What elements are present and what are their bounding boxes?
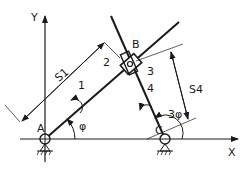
y-axis-label: Y xyxy=(30,11,38,24)
angle-phi-arc xyxy=(67,119,75,139)
s1-label: S1 xyxy=(52,66,71,85)
ground-support-c xyxy=(157,144,173,155)
phi-label: φ xyxy=(79,120,86,133)
three-phi-label: 3φ xyxy=(168,108,182,121)
joint-b xyxy=(128,62,133,67)
link-2-label: 2 xyxy=(103,56,110,69)
link-4 xyxy=(111,16,165,139)
s4-label: S4 xyxy=(189,83,203,96)
point-a-label: A xyxy=(37,122,45,135)
link-1-label: 1 xyxy=(78,79,85,92)
link-4-label: 4 xyxy=(147,82,154,95)
x-axis-label: X xyxy=(228,146,236,159)
mechanism-diagram: Y X A B C 1 2 3 4 S1 S4 φ 3φ xyxy=(0,0,245,176)
point-b-label: B xyxy=(132,38,140,51)
joint-a xyxy=(40,134,50,144)
point-c-label: C xyxy=(155,124,163,137)
link-3-label: 3 xyxy=(147,65,154,78)
